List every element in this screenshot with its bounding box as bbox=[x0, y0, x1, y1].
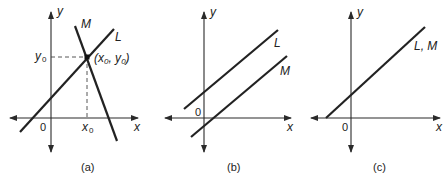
svg-text:x: x bbox=[81, 120, 89, 134]
line-M-label: M bbox=[81, 17, 91, 31]
y-axis-label: y bbox=[356, 5, 364, 19]
line-L-label: L bbox=[274, 36, 281, 50]
line-L-M bbox=[326, 27, 425, 118]
line-M-label: M bbox=[280, 64, 290, 78]
panel-a-caption: (a) bbox=[81, 161, 94, 173]
origin-label: 0 bbox=[40, 121, 46, 133]
line-L-label: L bbox=[115, 30, 122, 44]
lines-diagram: y x 0 M L y 0 x 0 (x0, y0) (a) y x 0 L M… bbox=[0, 0, 446, 187]
panel-c: y x 0 L, M (c) bbox=[311, 5, 443, 173]
intersection-point bbox=[85, 55, 90, 60]
line-L-M-label: L, M bbox=[414, 39, 437, 53]
y0-label: y 0 bbox=[34, 49, 47, 64]
origin-label: 0 bbox=[342, 121, 348, 133]
y-axis-label: y bbox=[56, 4, 64, 18]
svg-text:y: y bbox=[34, 49, 42, 63]
x-axis-label: x bbox=[133, 120, 141, 134]
panel-b-caption: (b) bbox=[227, 161, 240, 173]
panel-b: y x 0 L M (b) bbox=[165, 5, 294, 173]
x0-label: x 0 bbox=[81, 120, 94, 135]
line-M bbox=[191, 56, 287, 137]
origin-label: 0 bbox=[195, 106, 201, 118]
x-axis-label: x bbox=[435, 120, 443, 134]
svg-text:(x0, y0): (x0, y0) bbox=[94, 51, 130, 66]
line-L bbox=[20, 29, 114, 132]
intersection-label: (x0, y0) bbox=[94, 51, 130, 66]
x-axis-label: x bbox=[286, 120, 294, 134]
panel-c-caption: (c) bbox=[373, 161, 386, 173]
line-L bbox=[184, 30, 278, 109]
panel-a: y x 0 M L y 0 x 0 (x0, y0) (a) bbox=[10, 4, 141, 173]
svg-text:0: 0 bbox=[42, 55, 47, 64]
y-axis-label: y bbox=[209, 5, 217, 19]
svg-text:0: 0 bbox=[89, 126, 94, 135]
